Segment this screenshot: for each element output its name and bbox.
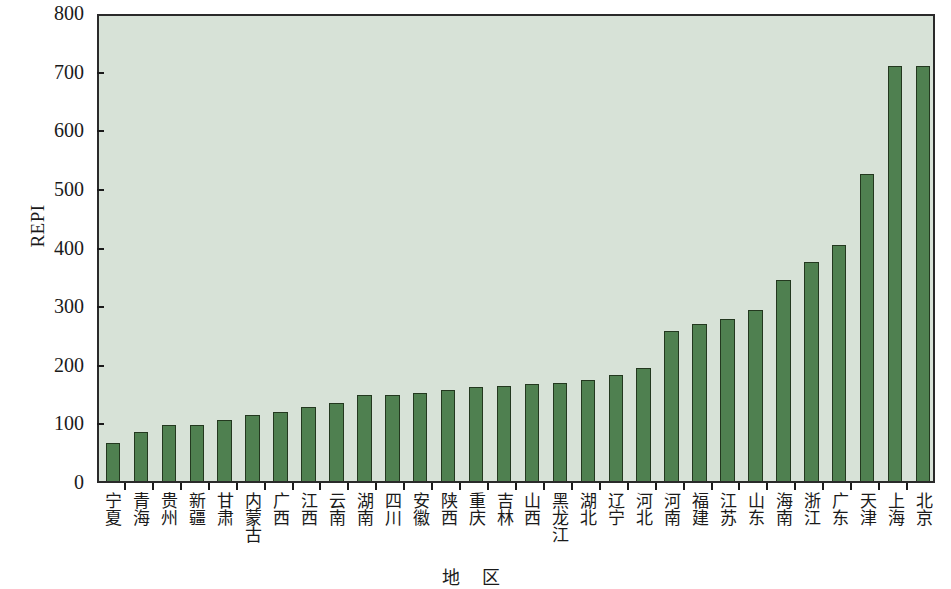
y-axis-tick-labels: 0100200300400500600700800: [36, 0, 84, 589]
x-tick-mark: [515, 483, 517, 490]
x-tick-label: 内蒙古: [240, 492, 262, 543]
bar: [190, 425, 205, 481]
x-tick-mark: [208, 483, 210, 490]
bars-container: [99, 16, 933, 481]
bar: [916, 66, 931, 481]
x-tick-label: 陕西: [435, 492, 457, 526]
bar: [245, 415, 260, 481]
x-tick-mark: [292, 483, 294, 490]
y-tick-mark-400: [97, 248, 104, 250]
x-tick-label: 天津: [854, 492, 876, 526]
bar: [385, 395, 400, 481]
x-tick-mark: [599, 483, 601, 490]
bar: [692, 324, 707, 481]
bar: [357, 395, 372, 481]
x-tick-mark: [180, 483, 182, 490]
x-tick-mark: [152, 483, 154, 490]
x-tick-mark: [850, 483, 852, 490]
y-tick-label-300: 300: [36, 296, 84, 316]
bar: [776, 280, 791, 481]
x-tick-label: 江西: [296, 492, 318, 526]
y-tick-label-0: 0: [36, 472, 84, 492]
x-tick-mark: [627, 483, 629, 490]
y-tick-mark-700: [97, 72, 104, 74]
y-tick-label-600: 600: [36, 120, 84, 140]
bar: [581, 380, 596, 481]
x-tick-label: 吉林: [491, 492, 513, 526]
x-tick-label: 山东: [742, 492, 764, 526]
x-tick-label: 宁夏: [100, 492, 122, 526]
x-tick-label: 江苏: [715, 492, 737, 526]
x-tick-label: 湖南: [351, 492, 373, 526]
y-tick-label-500: 500: [36, 179, 84, 199]
x-tick-label: 新疆: [184, 492, 206, 526]
x-tick-mark: [794, 483, 796, 490]
x-tick-label: 云南: [323, 492, 345, 526]
y-tick-mark-200: [97, 365, 104, 367]
x-axis-tick-labels: 宁夏青海贵州新疆甘肃内蒙古广西江西云南湖南四川安徽陕西重庆吉林山西黑龙江湖北辽宁…: [97, 492, 935, 572]
x-tick-mark: [403, 483, 405, 490]
bar: [804, 262, 819, 481]
bar: [664, 331, 679, 481]
x-tick-mark: [906, 483, 908, 490]
y-tick-label-700: 700: [36, 62, 84, 82]
bar: [525, 384, 540, 481]
x-tick-mark: [319, 483, 321, 490]
bar: [888, 66, 903, 481]
x-tick-label: 青海: [128, 492, 150, 526]
bar: [553, 383, 568, 481]
x-tick-label: 甘肃: [212, 492, 234, 526]
y-tick-label-200: 200: [36, 355, 84, 375]
y-tick-label-800: 800: [36, 3, 84, 23]
bar: [273, 412, 288, 481]
bar: [832, 245, 847, 481]
bar: [329, 403, 344, 481]
y-tick-label-400: 400: [36, 238, 84, 258]
bar: [720, 319, 735, 481]
x-tick-label: 北京: [910, 492, 932, 526]
x-tick-label: 山西: [519, 492, 541, 526]
y-tick-mark-500: [97, 189, 104, 191]
x-tick-mark: [375, 483, 377, 490]
bar: [413, 393, 428, 481]
y-tick-mark-100: [97, 423, 104, 425]
bar: [748, 310, 763, 481]
bar: [106, 443, 121, 481]
x-tick-label: 广东: [826, 492, 848, 526]
x-tick-mark: [431, 483, 433, 490]
x-tick-mark: [738, 483, 740, 490]
x-tick-label: 海南: [770, 492, 792, 526]
bar: [162, 425, 177, 481]
bar: [134, 432, 149, 481]
x-tick-label: 上海: [882, 492, 904, 526]
bar: [217, 420, 232, 481]
bar: [636, 368, 651, 481]
x-tick-mark: [543, 483, 545, 490]
repi-by-region-bar-chart: REPI 0100200300400500600700800 宁夏青海贵州新疆甘…: [0, 0, 951, 589]
x-tick-label: 浙江: [798, 492, 820, 526]
x-tick-mark: [264, 483, 266, 490]
y-tick-mark-300: [97, 306, 104, 308]
x-tick-label: 辽宁: [603, 492, 625, 526]
x-tick-label: 四川: [379, 492, 401, 526]
x-tick-mark: [347, 483, 349, 490]
x-tick-mark: [236, 483, 238, 490]
bar: [469, 387, 484, 481]
x-tick-label: 广西: [268, 492, 290, 526]
x-tick-mark: [487, 483, 489, 490]
x-tick-label: 河南: [659, 492, 681, 526]
x-tick-mark: [655, 483, 657, 490]
y-tick-label-100: 100: [36, 413, 84, 433]
x-tick-mark: [571, 483, 573, 490]
x-tick-mark: [683, 483, 685, 490]
x-tick-mark: [766, 483, 768, 490]
x-axis-title: 地 区: [0, 563, 951, 589]
x-tick-mark: [124, 483, 126, 490]
x-tick-label: 湖北: [575, 492, 597, 526]
x-tick-mark: [459, 483, 461, 490]
x-tick-mark: [711, 483, 713, 490]
x-tick-mark: [878, 483, 880, 490]
bar: [441, 390, 456, 481]
y-tick-mark-600: [97, 130, 104, 132]
x-tick-mark: [822, 483, 824, 490]
